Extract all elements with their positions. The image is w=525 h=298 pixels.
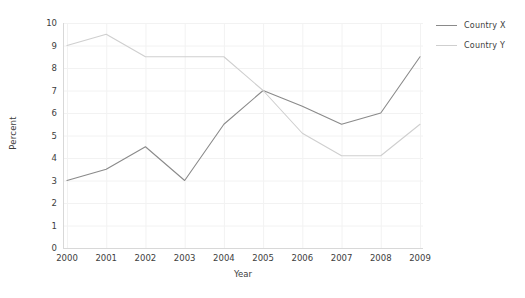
- x-tick-label: 2008: [370, 253, 392, 263]
- x-tick-label: 2005: [252, 253, 274, 263]
- x-tick-label: 2002: [135, 253, 157, 263]
- y-tick-label: 9: [52, 41, 57, 51]
- country-y-line-swatch: [436, 45, 457, 46]
- country-x-line-swatch: [436, 25, 457, 26]
- y-tick-label: 2: [52, 198, 57, 208]
- legend-item-country-x: Country X: [436, 15, 506, 35]
- x-tick-label: 2004: [213, 253, 235, 263]
- x-tick-label: 2000: [56, 253, 78, 263]
- x-tick-label: 2007: [331, 253, 353, 263]
- y-tick-label: 4: [52, 153, 57, 163]
- y-tick-label: 6: [52, 108, 57, 118]
- y-tick-label: 10: [46, 18, 57, 28]
- y-tick-label: 3: [52, 176, 57, 186]
- series-line-country-y: [67, 34, 420, 156]
- x-axis-title: Year: [63, 269, 423, 279]
- y-tick-label: 5: [52, 131, 57, 141]
- series-line-country-x: [67, 57, 420, 181]
- y-tick-label: 0: [52, 243, 57, 253]
- y-tick-label: 1: [52, 221, 57, 231]
- legend-item-country-y: Country Y: [436, 35, 506, 55]
- x-tick-label: 2009: [409, 253, 431, 263]
- x-tick-label: 2003: [174, 253, 196, 263]
- x-tick-label: 2006: [292, 253, 314, 263]
- y-tick-label: 8: [52, 63, 57, 73]
- y-tick-label: 7: [52, 86, 57, 96]
- y-axis-title: Percent: [8, 116, 18, 149]
- legend-label-country-y: Country Y: [464, 41, 505, 50]
- legend-label-country-x: Country X: [464, 21, 506, 30]
- legend: Country X Country Y: [436, 15, 506, 55]
- x-tick-label: 2001: [95, 253, 117, 263]
- line-chart: 0123456789102000200120022003200420052006…: [0, 0, 525, 298]
